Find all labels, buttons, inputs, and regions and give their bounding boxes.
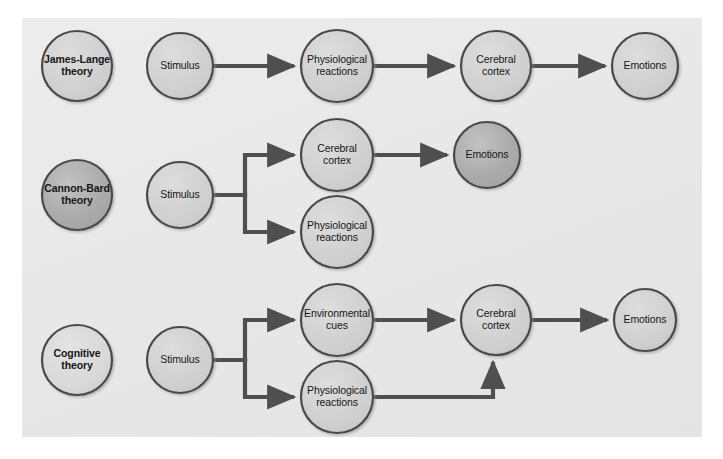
node-sheen-cg-cortex <box>462 286 530 354</box>
node-sheen-jl-stimulus <box>148 34 212 98</box>
node-sheen-jl-emotions <box>613 34 677 98</box>
node-jl-physiological[interactable] <box>301 30 373 102</box>
node-sheen-cg-theory <box>43 326 111 394</box>
node-cg-emotions[interactable] <box>614 289 676 351</box>
node-cb-stimulus[interactable] <box>147 162 213 228</box>
node-sheen-jl-theory <box>43 32 111 100</box>
node-jl-emotions[interactable] <box>612 33 678 99</box>
node-sheen-jl-cortex <box>462 32 530 100</box>
connector-cg-4 <box>374 362 493 397</box>
node-cb-cortex[interactable] <box>301 119 373 191</box>
node-sheen-cb-cortex <box>302 120 372 190</box>
connector-layer <box>214 66 607 397</box>
node-sheen-cb-emotions <box>455 123 519 187</box>
node-cb-theory[interactable] <box>42 160 112 230</box>
node-sheen-cb-physiological <box>302 197 372 267</box>
node-sheen-cg-emotions <box>615 290 675 350</box>
node-sheen-cg-stimulus <box>148 328 212 392</box>
node-sheen-cb-theory <box>43 161 111 229</box>
node-jl-stimulus[interactable] <box>147 33 213 99</box>
node-cg-environmental[interactable] <box>301 284 373 356</box>
node-cb-emotions[interactable] <box>454 122 520 188</box>
node-layer <box>42 30 678 433</box>
node-sheen-cg-environmental <box>302 285 372 355</box>
connector-cb-2 <box>245 195 294 232</box>
node-sheen-jl-physiological <box>302 31 372 101</box>
node-cb-physiological[interactable] <box>301 196 373 268</box>
connector-cb-1 <box>245 155 294 195</box>
diagram-canvas <box>0 0 723 459</box>
node-cg-physiological[interactable] <box>301 361 373 433</box>
node-cg-cortex[interactable] <box>461 285 531 355</box>
node-sheen-cg-physiological <box>302 362 372 432</box>
node-sheen-cb-stimulus <box>148 163 212 227</box>
connector-cg-2 <box>245 360 294 397</box>
node-jl-cortex[interactable] <box>461 31 531 101</box>
node-cg-theory[interactable] <box>42 325 112 395</box>
node-cg-stimulus[interactable] <box>147 327 213 393</box>
emotion-theories-diagram: James-LangetheoryStimulusPhysiologicalre… <box>0 0 723 459</box>
connector-cg-1 <box>245 320 294 360</box>
node-jl-theory[interactable] <box>42 31 112 101</box>
